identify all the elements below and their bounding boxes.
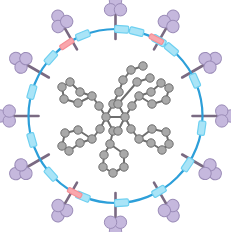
core-atom-r4c [158,146,166,154]
ring-linker-2 [189,73,201,89]
linker-block [151,185,167,198]
cluster-lobe-2 [3,105,15,117]
trefoil-cluster-8 [5,156,35,186]
trefoil-cluster-1 [156,5,186,35]
core-atom-r5a [106,140,114,148]
core-atom-r2c [157,79,165,87]
core-atom-r4f [148,125,156,133]
core-atom-r1a [88,92,96,100]
core-atom-t6 [146,74,154,82]
figure-root [0,0,231,232]
core-atom-r1e [60,95,68,103]
core-atom-t5 [133,78,141,86]
molecular-diagram-canvas [0,0,231,232]
ring-linker-9 [27,132,38,147]
core-atom-t4 [139,62,147,70]
trefoil-cluster-3 [216,105,231,127]
core-atom-r3e [61,129,69,137]
linker-block [189,73,201,89]
core-atoms-layer [58,62,173,177]
linker-block [197,121,206,136]
trefoil-cluster-0 [104,0,126,16]
core-atom-t3 [127,66,135,74]
cluster-lobe-2 [114,4,126,16]
cluster-lobe-2 [104,216,116,228]
trefoil-cluster-5 [156,197,186,227]
core-atom-a5 [95,102,103,110]
ring-linker-11 [44,50,59,65]
ring-linker-3 [197,121,206,136]
core-atom-r2e [162,96,170,104]
core-atom-t2 [119,76,127,84]
ring-linker-12 [75,29,91,41]
core-atom-r3f [74,126,82,134]
core-atom-r5d [109,169,117,177]
trefoil-cluster-11 [45,5,75,35]
ring-linker-13 [114,25,128,33]
core-atom-r3b [76,139,84,147]
core-atom-r5f [120,150,128,158]
core-atom-r4e [162,128,170,136]
core-atom-a4 [114,100,122,108]
core-atom-a10 [114,127,122,135]
core-atom-r2a [135,92,143,100]
core-atom-t1 [115,88,123,96]
core-atom-a2 [121,113,129,121]
ring-linker-1 [164,42,179,56]
ring-linker-6 [114,199,128,207]
linker-block [44,167,59,182]
core-atom-r4a [135,135,143,143]
linker-block [114,199,128,207]
trefoil-cluster-6 [104,216,126,232]
trefoil-cluster-10 [5,46,35,76]
core-atom-r1c [66,78,74,86]
pink-marker-2 [59,38,74,51]
core-atom-r5b [100,151,108,159]
trefoil-cluster-4 [197,156,227,186]
core-atom-a8 [127,125,135,133]
ring-linker-0 [129,26,144,36]
pink-block [59,38,74,51]
ring-linker-8 [44,167,59,182]
trefoil-cluster-9 [0,105,15,127]
core-atom-r1b [76,88,84,96]
trefoil-cluster-7 [45,197,75,227]
linker-block [75,29,91,41]
ring-linker-5 [151,185,167,198]
ring-linker-4 [181,157,195,173]
core-atom-r5c [99,163,107,171]
linker-block [129,26,144,36]
core-atom-r2d [165,84,173,92]
linker-block [164,42,179,56]
core-atom-r4d [165,140,173,148]
linker-block [27,84,38,99]
core-atom-r2f [148,100,156,108]
core-atom-r3d [58,142,66,150]
core-atom-r4b [147,139,155,147]
core-atom-r5e [120,163,128,171]
linker-block [27,132,38,147]
ring-linker-10 [27,84,38,99]
core-atom-a1 [102,113,110,121]
linker-block [114,25,128,33]
trefoil-cluster-2 [197,46,227,76]
core-bonds-layer [62,66,169,173]
core-atom-r1f [74,99,82,107]
core-atom-r2b [147,88,155,96]
linker-block [181,157,195,173]
core-atom-r1d [58,83,66,91]
core-atom-a7 [96,125,104,133]
linker-block [44,50,59,65]
cluster-lobe-2 [216,115,228,127]
core-atom-r3a [88,135,96,143]
core-atom-a6 [128,102,136,110]
